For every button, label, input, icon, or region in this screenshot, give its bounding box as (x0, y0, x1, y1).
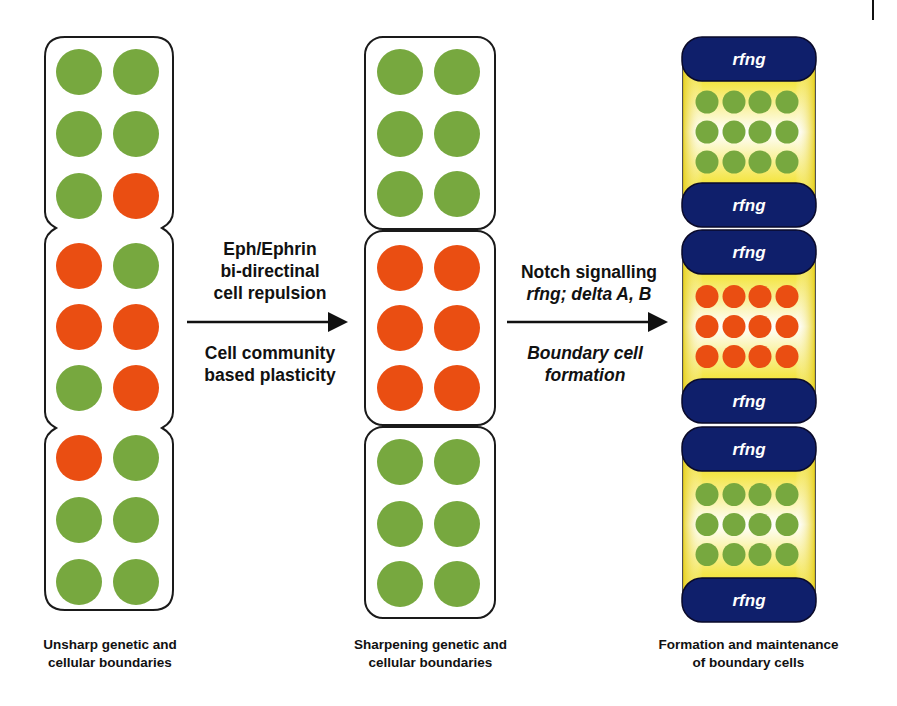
green-cell (749, 483, 772, 506)
green-cell (434, 49, 480, 95)
red-cell (749, 345, 772, 368)
green-cell (113, 49, 159, 95)
red-cell (113, 365, 159, 411)
green-cell (776, 483, 799, 506)
green-cell (434, 111, 480, 157)
green-cell (113, 435, 159, 481)
diagram-canvas: rfngrfngrfngrfngrfngrfng (0, 0, 897, 706)
green-cell (776, 513, 799, 536)
transition-1-line-2: bi-directinal (185, 260, 355, 282)
green-cell (113, 559, 159, 605)
red-cell (56, 435, 102, 481)
stage-sharpening (365, 37, 495, 618)
green-cell (749, 151, 772, 174)
green-cell (56, 173, 102, 219)
green-cell (377, 171, 423, 217)
red-cell (377, 365, 423, 411)
green-cell (723, 121, 746, 144)
green-cell (749, 121, 772, 144)
transition-2-below: Boundary cell formation (500, 342, 670, 386)
green-cell (696, 483, 719, 506)
caption-unsharp-line-1: Unsharp genetic and (0, 636, 220, 654)
stage-boundary-cells: rfngrfngrfngrfngrfngrfng (682, 37, 816, 622)
green-cell (696, 543, 719, 566)
red-cell (696, 315, 719, 338)
green-cell (377, 49, 423, 95)
red-cell (776, 285, 799, 308)
arrow-1 (187, 312, 348, 332)
red-cell (723, 315, 746, 338)
transition-2-line-2: rfng; delta A, B (500, 283, 678, 305)
green-cell (434, 561, 480, 607)
transition-1-above: Eph/Ephrin bi-directinal cell repulsion (185, 238, 355, 304)
caption-unsharp: Unsharp genetic and cellular boundaries (0, 636, 220, 672)
green-cell (56, 49, 102, 95)
red-cell (377, 305, 423, 351)
red-cell (113, 173, 159, 219)
green-cell (434, 171, 480, 217)
rfng-label: rfng (732, 196, 766, 215)
green-cell (749, 513, 772, 536)
red-cell (56, 304, 102, 350)
green-cell (749, 91, 772, 114)
red-cell (56, 243, 102, 289)
transition-2-line-1: Notch signalling (500, 261, 678, 283)
green-cell (56, 559, 102, 605)
red-cell (776, 315, 799, 338)
green-cell (696, 121, 719, 144)
green-cell (56, 365, 102, 411)
transition-1-line-3: cell repulsion (185, 282, 355, 304)
green-cell (377, 111, 423, 157)
green-cell (749, 543, 772, 566)
green-cell (434, 501, 480, 547)
boundary-compartment-3: rfngrfng (682, 427, 816, 622)
green-cell (776, 121, 799, 144)
transition-1-line-1: Eph/Ephrin (185, 238, 355, 260)
green-cell (723, 91, 746, 114)
red-cell (696, 285, 719, 308)
green-cell (377, 439, 423, 485)
green-cell (377, 501, 423, 547)
green-cell (776, 91, 799, 114)
green-cell (434, 439, 480, 485)
green-cell (723, 151, 746, 174)
green-cell (723, 543, 746, 566)
red-cell (749, 285, 772, 308)
transition-2-below-line-2: formation (500, 364, 670, 386)
green-cell (776, 543, 799, 566)
caption-boundary-line-2: of boundary cells (626, 654, 871, 672)
rfng-label: rfng (732, 440, 766, 459)
green-cell (696, 91, 719, 114)
caption-unsharp-line-2: cellular boundaries (0, 654, 220, 672)
red-cell (434, 245, 480, 291)
caption-sharpening: Sharpening genetic and cellular boundari… (318, 636, 543, 672)
green-cell (696, 513, 719, 536)
transition-2-below-line-1: Boundary cell (500, 342, 670, 364)
green-cell (113, 497, 159, 543)
caption-sharpening-line-1: Sharpening genetic and (318, 636, 543, 654)
green-cell (723, 483, 746, 506)
green-cell (776, 151, 799, 174)
caption-sharpening-line-2: cellular boundaries (318, 654, 543, 672)
green-cell (696, 151, 719, 174)
red-cell (776, 345, 799, 368)
red-cell (723, 345, 746, 368)
red-cell (434, 365, 480, 411)
green-cell (113, 111, 159, 157)
transition-2-above: Notch signalling rfng; delta A, B (500, 261, 678, 305)
caption-boundary-cells: Formation and maintenance of boundary ce… (626, 636, 871, 672)
rfng-label: rfng (732, 243, 766, 262)
boundary-compartment-1: rfngrfng (682, 37, 816, 227)
red-cell (377, 245, 423, 291)
rfng-label: rfng (732, 591, 766, 610)
arrow-2 (507, 312, 668, 332)
caption-boundary-line-1: Formation and maintenance (626, 636, 871, 654)
rfng-label: rfng (732, 50, 766, 69)
transition-1-below-line-1: Cell community (180, 342, 360, 364)
transition-1-below: Cell community based plasticity (180, 342, 360, 386)
green-cell (113, 243, 159, 289)
green-cell (377, 561, 423, 607)
green-cell (56, 497, 102, 543)
green-cell (56, 111, 102, 157)
red-cell (113, 304, 159, 350)
